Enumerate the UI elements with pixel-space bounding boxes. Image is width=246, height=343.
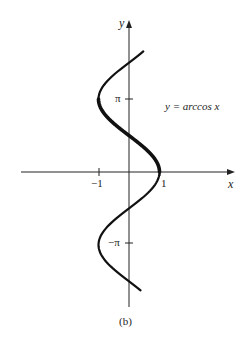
- x-axis-arrow-icon: [227, 169, 235, 175]
- tick-label-neg-pi: −π: [108, 237, 120, 248]
- annotation-text: y = arccos x: [165, 100, 219, 112]
- curve-annotation: y = arccos x: [165, 101, 219, 112]
- y-axis-label: y: [119, 17, 124, 29]
- x-axis-label: x: [228, 178, 233, 190]
- tick-label-neg1: −1: [91, 178, 103, 189]
- y-axis-arrow-icon: [126, 20, 132, 28]
- tick-label-pos1: 1: [161, 178, 167, 189]
- chart-plot: [0, 0, 246, 343]
- figure-caption: (b): [119, 316, 132, 327]
- tick-label-pi: π: [115, 93, 121, 104]
